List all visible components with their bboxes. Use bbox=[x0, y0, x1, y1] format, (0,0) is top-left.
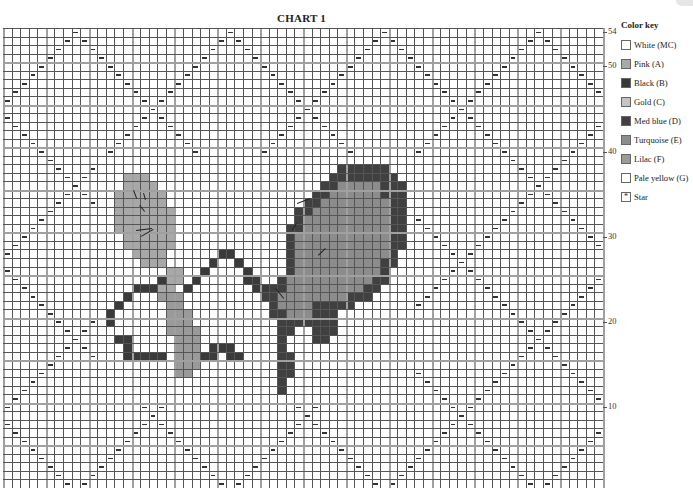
purl-symbol bbox=[416, 151, 421, 153]
purl-symbol bbox=[433, 236, 438, 238]
purl-symbol bbox=[545, 194, 550, 196]
purl-symbol bbox=[476, 279, 481, 281]
motif-cell bbox=[380, 267, 389, 276]
color-swatch bbox=[621, 173, 631, 183]
color-swatch bbox=[621, 40, 631, 50]
grid-line-horizontal bbox=[3, 301, 603, 302]
row-number-label: 50 bbox=[608, 60, 617, 70]
purl-symbol bbox=[322, 126, 327, 128]
purl-symbol bbox=[331, 441, 336, 443]
chart-title: CHART 1 bbox=[0, 12, 603, 24]
color-key-title: Color key bbox=[621, 20, 688, 30]
grid-line-horizontal bbox=[3, 28, 603, 29]
color-key: Color key White (MC)Pink (A)Black (B)Gol… bbox=[621, 20, 688, 206]
purl-symbol bbox=[596, 91, 601, 93]
motif-cell bbox=[337, 292, 346, 301]
grid-line-horizontal bbox=[3, 249, 603, 250]
grid-line-horizontal bbox=[3, 318, 603, 320]
motif-cell bbox=[269, 309, 278, 318]
purl-symbol bbox=[305, 415, 310, 417]
motif-cell bbox=[372, 207, 381, 216]
motif-cell bbox=[337, 173, 346, 182]
purl-symbol bbox=[108, 151, 113, 153]
purl-symbol bbox=[365, 49, 370, 51]
motif-cell bbox=[354, 267, 363, 276]
motif-cell bbox=[337, 258, 346, 267]
motif-cell bbox=[277, 309, 286, 318]
motif-cell bbox=[354, 173, 363, 182]
purl-symbol bbox=[571, 458, 576, 460]
color-key-label: Turquoise (E) bbox=[634, 135, 682, 145]
motif-cell bbox=[312, 224, 321, 233]
motif-cell bbox=[329, 284, 338, 293]
purl-symbol bbox=[5, 253, 10, 255]
purl-symbol bbox=[485, 236, 490, 238]
motif-cell bbox=[354, 249, 363, 258]
grid-line-horizontal bbox=[3, 479, 603, 480]
grid-line-horizontal bbox=[3, 369, 603, 370]
motif-cell bbox=[123, 343, 132, 352]
motif-cell bbox=[234, 352, 243, 361]
purl-symbol bbox=[228, 32, 233, 34]
grid-line-horizontal bbox=[3, 113, 603, 114]
grid-line-horizontal bbox=[3, 267, 603, 268]
motif-cell bbox=[363, 215, 372, 224]
purl-symbol bbox=[48, 57, 53, 59]
purl-symbol bbox=[562, 364, 567, 366]
purl-symbol bbox=[442, 279, 447, 281]
motif-cell bbox=[372, 181, 381, 190]
motif-cell bbox=[312, 309, 321, 318]
motif-cell bbox=[312, 198, 321, 207]
motif-cell bbox=[140, 181, 149, 190]
purl-symbol bbox=[588, 236, 593, 238]
purl-symbol bbox=[579, 74, 584, 76]
motif-cell bbox=[183, 335, 192, 344]
motif-cell bbox=[123, 181, 132, 190]
grid-line-horizontal bbox=[3, 156, 603, 157]
purl-symbol bbox=[91, 475, 96, 477]
purl-symbol bbox=[48, 211, 53, 213]
motif-cell bbox=[114, 215, 123, 224]
motif-cell bbox=[123, 352, 132, 361]
row-number-label: 10 bbox=[608, 401, 617, 411]
motif-cell bbox=[337, 215, 346, 224]
purl-symbol bbox=[236, 40, 241, 42]
purl-symbol bbox=[391, 483, 396, 485]
purl-symbol bbox=[39, 458, 44, 460]
purl-symbol bbox=[48, 160, 53, 162]
purl-symbol bbox=[91, 202, 96, 204]
purl-symbol bbox=[545, 330, 550, 332]
purl-symbol bbox=[511, 211, 516, 213]
purl-symbol bbox=[459, 415, 464, 417]
purl-symbol bbox=[356, 57, 361, 59]
purl-symbol bbox=[288, 126, 293, 128]
motif-cell bbox=[200, 267, 209, 276]
motif-cell bbox=[329, 198, 338, 207]
purl-symbol bbox=[56, 202, 61, 204]
row-tick bbox=[603, 322, 607, 323]
motif-cell bbox=[329, 207, 338, 216]
grid-line-horizontal bbox=[3, 224, 603, 225]
purl-symbol bbox=[476, 126, 481, 128]
motif-cell bbox=[183, 369, 192, 378]
purl-symbol bbox=[519, 49, 524, 51]
grid-line-horizontal bbox=[3, 54, 603, 55]
motif-cell bbox=[192, 352, 201, 361]
motif-cell bbox=[123, 241, 132, 250]
grid-line-horizontal bbox=[3, 309, 603, 310]
grid-line-horizontal bbox=[3, 241, 603, 242]
purl-symbol bbox=[296, 100, 301, 102]
color-key-item: Black (B) bbox=[621, 73, 688, 92]
motif-cell bbox=[123, 173, 132, 182]
purl-symbol bbox=[536, 185, 541, 187]
motif-cell bbox=[363, 207, 372, 216]
motif-cell bbox=[166, 326, 175, 335]
purl-symbol bbox=[485, 134, 490, 136]
purl-symbol bbox=[31, 381, 36, 383]
motif-cell bbox=[354, 164, 363, 173]
purl-symbol bbox=[331, 134, 336, 136]
purl-symbol bbox=[253, 57, 258, 59]
motif-cell bbox=[312, 292, 321, 301]
purl-symbol bbox=[202, 466, 207, 468]
row-number-label: 40 bbox=[608, 146, 617, 156]
